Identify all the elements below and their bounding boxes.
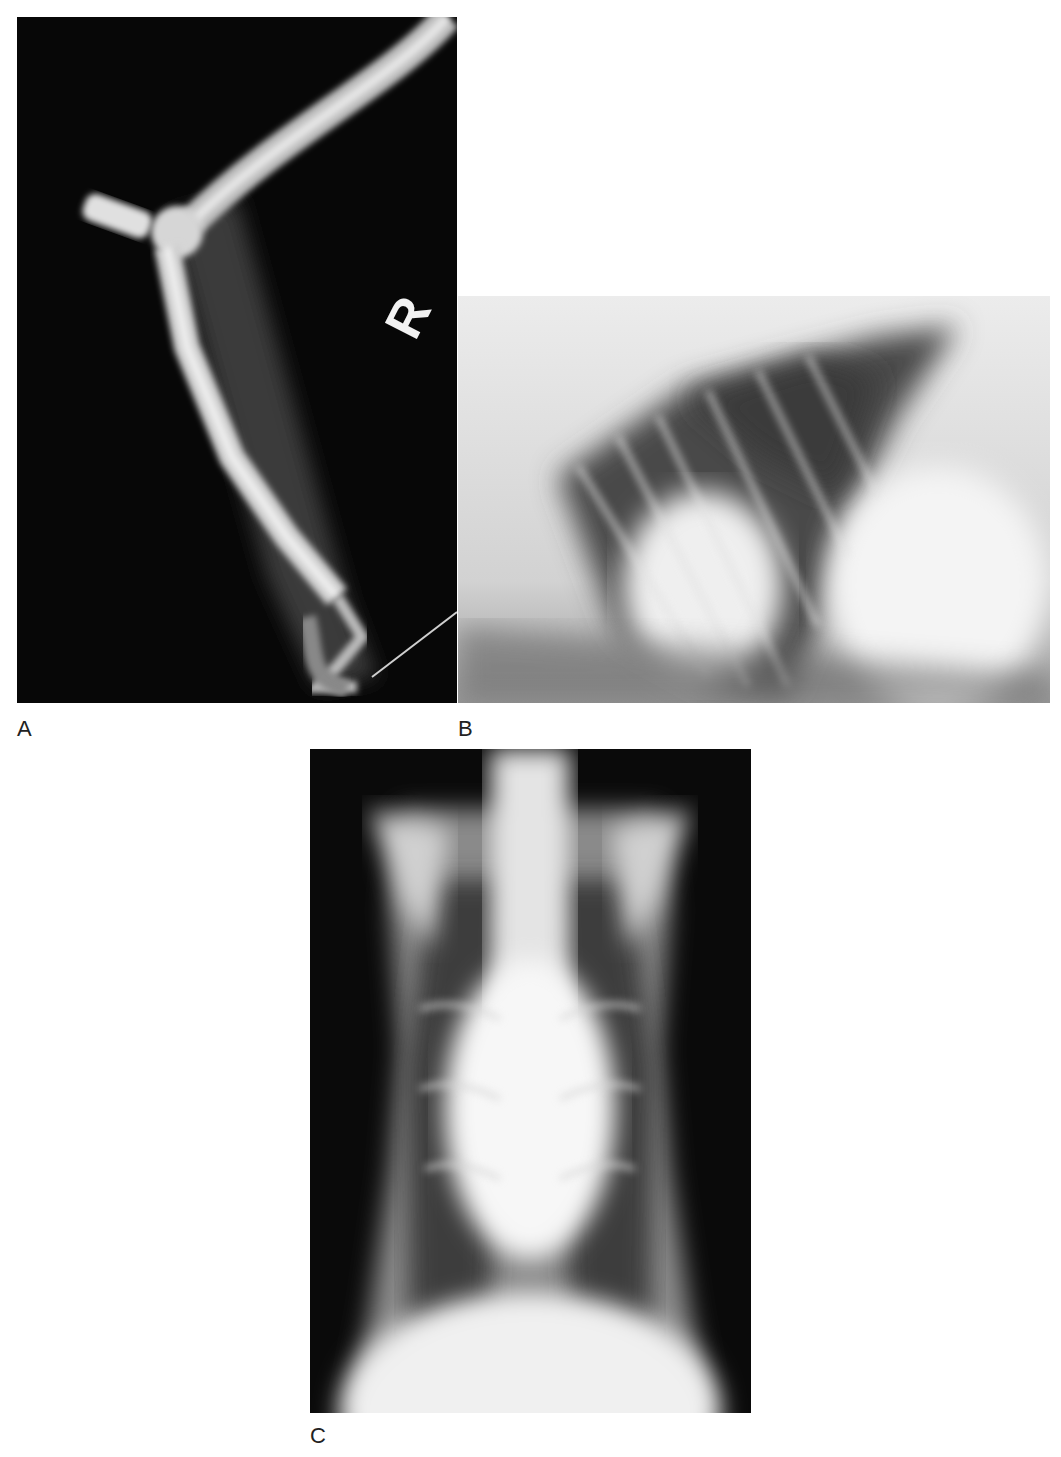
panel-label-c: C bbox=[310, 1425, 326, 1447]
lateral-thorax-radiograph-image bbox=[458, 296, 1050, 703]
panel-label-a: A bbox=[17, 718, 32, 740]
ventrodorsal-thorax-radiograph-image bbox=[310, 749, 751, 1413]
radiograph-panel-b bbox=[458, 296, 1050, 703]
radiograph-panel-a: R bbox=[17, 17, 457, 703]
radiograph-panel-c bbox=[310, 749, 751, 1413]
panel-label-b: B bbox=[458, 718, 473, 740]
limb-radiograph-image bbox=[17, 17, 457, 703]
